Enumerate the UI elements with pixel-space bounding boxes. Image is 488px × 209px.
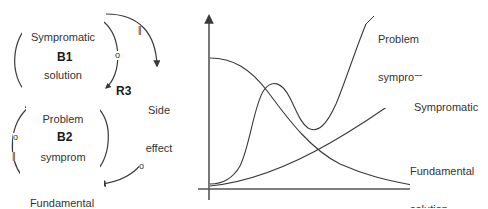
node-side-effect: Side effect (140, 79, 178, 179)
opposite-polarity-marker-icon-b2: o (13, 133, 18, 142)
node-fundamental-solution: Fundamental solution (20, 172, 104, 208)
chart-label-symptomatic-solution-line1: Sympromatic (414, 101, 488, 114)
node-symptomatic-solution-line1: Sympromatic (22, 31, 104, 44)
delay-marker-icon-b1: || (138, 26, 141, 35)
chart-leader-problem-symptom (366, 16, 374, 24)
link-symptomatic-to-side-effect (106, 14, 157, 66)
node-side-effect-line2: effect (140, 142, 178, 155)
loop-label-b2: B2 (57, 130, 72, 144)
node-symptomatic-solution-line2: solution (22, 69, 104, 82)
chart-label-problem-symptom-line1: Problem (378, 33, 482, 46)
node-fundamental-solution-line1: Fundamental (20, 197, 104, 208)
chart-label-fundamental-solution-line2: solution (410, 203, 488, 209)
node-problem-symptom-line1: Problem (26, 113, 100, 126)
figure-canvas: Sympromatic solution Problem symprom Fun… (0, 0, 488, 208)
loop-label-b1: B1 (57, 50, 72, 64)
node-side-effect-line1: Side (140, 104, 178, 117)
chart-label-fundamental-solution-line1: Fundamental (410, 165, 488, 178)
delay-marker-icon-b2: || (12, 152, 15, 161)
opposite-polarity-marker-icon-b1: o (115, 51, 120, 60)
node-problem-symptom-line2: symprom (26, 151, 100, 164)
chart-series-problem-symptom (210, 24, 366, 184)
chart-label-fundamental-solution: Fundamental solution (410, 140, 488, 208)
opposite-polarity-marker-icon-r3: o (139, 162, 144, 171)
loop-label-r3: R3 (116, 84, 131, 98)
